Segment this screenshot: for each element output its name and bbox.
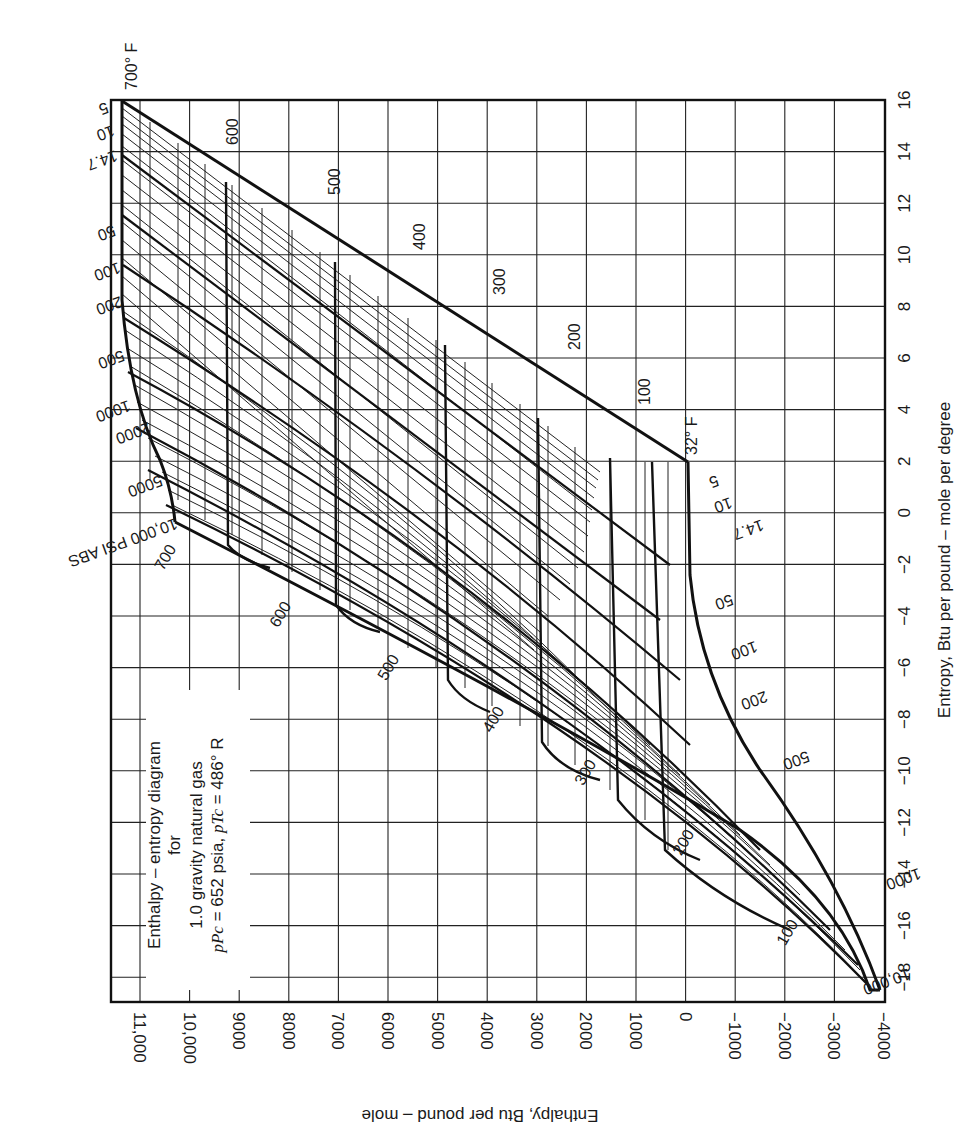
isobar-label-200-left: 200 [94,293,125,318]
enthalpy-axis-title: Enthalpy, Btu per pound – mole [362,1106,599,1125]
title-line-1: Enthalpy – entropy diagram [145,741,164,949]
enthalpy-tick: −1000 [725,1012,744,1060]
enthalpy-entropy-chart: 16 14 12 10 8 6 4 2 0 −2 −4 −6 −8 −10 −1… [0,0,975,1133]
isotherm-label-400: 400 [411,223,428,250]
isobar-label-1000-left: 1000 [93,397,132,425]
enthalpy-tick: 6000 [378,1012,397,1050]
title-line-4: pPc = 652 psia, pTc = 486° R [208,737,227,953]
entropy-tick: −16 [895,911,914,940]
enthalpy-tick: −3000 [824,1012,843,1060]
ppc-symbol: pPc [208,926,227,954]
upper-isotherm-labels: 700° F 600 500 400 300 200 100 32° F [123,42,700,455]
isobar-label-100-right: 100 [729,638,760,663]
isotherm-label-200: 200 [566,323,583,350]
isotherm-600 [226,182,270,568]
enthalpy-tick: −4000 [874,1012,893,1060]
entropy-tick: 16 [895,91,914,110]
ptc-value: = 486° R [208,737,227,809]
isotherm-label-200-low: 200 [669,826,697,858]
isobar-label-50-right: 50 [713,591,736,613]
isobar-label-5-left: 5 [97,99,111,118]
isobar-14.7 [122,155,670,565]
isobar-label-50-left: 50 [95,222,118,244]
isotherm-label-500: 500 [326,168,343,195]
isobar-label-5-right: 5 [707,472,721,491]
isobar-label-14.7-right: 14.7 [731,517,766,544]
isotherm-label-300: 300 [491,268,508,295]
isobar-label-14.7-left: 14.7 [85,147,120,174]
isobar-label-200-right: 200 [739,688,770,713]
isotherm-label-100-low: 100 [773,916,801,948]
title-line-3: 1.0 gravity natural gas [187,761,206,928]
enthalpy-tick: 1000 [626,1012,645,1050]
isobar-100 [123,265,680,680]
entropy-tick: −2 [895,555,914,574]
entropy-tick: 12 [895,194,914,213]
isotherm-label-600: 600 [224,118,241,145]
entropy-tick: −8 [895,710,914,729]
ppc-value: = 652 psia, [208,833,227,926]
isotherm-label-700F: 700° F [123,42,140,90]
isobar-label-100-left: 100 [92,259,123,284]
isotherm-label-600-low: 600 [266,598,294,630]
major-isotherms [226,182,790,930]
isobar-10000psi-boundary [175,522,880,990]
isobar-label-5000-left: 5000 [125,472,164,500]
entropy-tick: 8 [895,302,914,311]
entropy-tick: 4 [895,405,914,414]
isobar-label-500-left: 500 [96,347,127,372]
enthalpy-tick: 7000 [328,1012,347,1050]
isobar-5psi-boundary [122,101,688,462]
title-line-2: for [165,835,184,855]
enthalpy-tick: 2000 [576,1012,595,1050]
isobar-label-500-right: 500 [781,748,812,773]
isotherm-label-700-low: 700 [151,541,179,573]
enthalpy-tick: −2000 [775,1012,794,1060]
enthalpy-tick: 4000 [477,1012,496,1050]
isotherm-700F-boundary [122,101,175,522]
entropy-tick-labels: 16 14 12 10 8 6 4 2 0 −2 −4 −6 −8 −10 −1… [895,91,914,992]
isobar-label-10000-right: 10,000 [861,965,913,998]
entropy-tick: −6 [895,658,914,677]
isotherm-label-32F: 32° F [683,416,700,455]
enthalpy-tick: 0 [676,1012,695,1021]
enthalpy-tick: 11,000 [130,1012,149,1063]
enthalpy-tick: 8000 [279,1012,298,1050]
entropy-axis-title: Entropy, Btu per pound – mole per degree [935,402,954,718]
entropy-tick: 2 [895,456,914,465]
entropy-tick: 10 [895,245,914,264]
isotherm-label-100: 100 [636,378,653,405]
isobar-50 [122,215,660,620]
entropy-tick: −10 [895,756,914,785]
entropy-tick: −4 [895,606,914,625]
isobar-label-10-left: 10 [94,122,117,144]
entropy-tick: 14 [895,142,914,161]
entropy-tick: −12 [895,808,914,837]
isobar-label-2000-left: 2000 [113,419,152,447]
isotherm-32F-boundary [688,462,880,990]
enthalpy-tick-labels: 11,000 10,000 9000 8000 7000 6000 5000 4… [130,1012,893,1064]
enthalpy-tick: 10,000 [180,1012,199,1064]
isobar-5000 [166,505,868,985]
entropy-tick: 0 [895,508,914,517]
ptc-symbol: pTc [208,809,227,834]
enthalpy-tick: 9000 [229,1012,248,1050]
enthalpy-tick: 5000 [428,1012,447,1050]
entropy-tick: 6 [895,353,914,362]
enthalpy-tick: 3000 [527,1012,546,1050]
